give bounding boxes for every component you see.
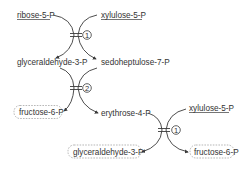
label-xylulose-5-p-top: xylulose-5-P [101,11,147,20]
label-fructose-6-p-right: fructose-6-P [194,148,239,157]
reaction-1-bottom: xylulose-5-P 1 glyceraldehyde-3-P fructo… [68,104,239,159]
label-fructose-6-p-left: fructose-6-P [19,108,64,117]
label-xylulose-5-p-bottom: xylulose-5-P [189,104,235,113]
enzyme-number-1-bottom: 1 [174,126,178,135]
reaction-2: glyceraldehyde-3-P sedoheptulose-7-P 2 f… [14,58,170,119]
label-glyceraldehyde-3-p-bottom: glyceraldehyde-3-P [73,148,144,157]
enzyme-number-1-top: 1 [85,31,89,40]
reaction-1-top: ribose-5-P xylulose-5-P 1 [17,11,147,60]
label-erythrose-4-p: erythrose-4-P [101,109,151,118]
pathway-diagram: ribose-5-P xylulose-5-P 1 glyceraldehyde… [0,0,246,171]
label-sedoheptulose-7-p: sedoheptulose-7-P [101,58,170,67]
label-ribose-5-p: ribose-5-P [17,11,55,20]
arrow-erythrose-to-gap [142,113,162,152]
enzyme-number-2: 2 [85,84,89,93]
label-glyceraldehyde-3-p-mid: glyceraldehyde-3-P [17,58,88,67]
